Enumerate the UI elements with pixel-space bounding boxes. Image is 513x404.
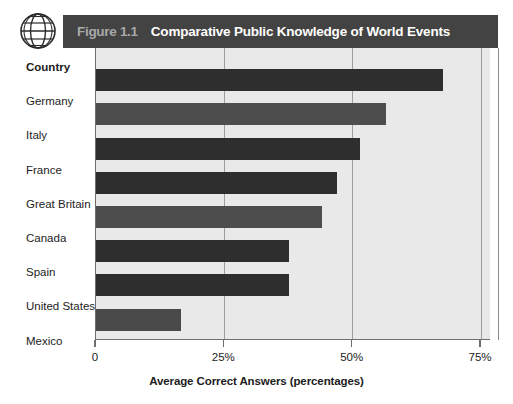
globe-icon [18,11,58,51]
category-label-italy: Italy [26,128,92,142]
category-label-france: France [26,163,92,177]
x-tick-mark-25 [223,340,225,347]
category-label-united-states: United States [26,299,92,313]
bar-spain [96,240,289,262]
category-label-canada: Canada [26,231,92,245]
x-tick-mark-0 [94,340,96,347]
category-label-spain: Spain [26,265,92,279]
bar-united-states [96,274,289,296]
x-tick-label-50: 50% [340,351,363,363]
x-tick-label-0: 0 [92,351,98,363]
category-header-label: Country [26,60,92,74]
bar-italy [96,103,386,125]
bar-germany [96,69,443,91]
x-tick-mark-75 [479,340,481,347]
category-label-germany: Germany [26,94,92,108]
bar-great-britain [96,172,337,194]
x-tick-mark-50 [351,340,353,347]
x-axis-title: Average Correct Answers (percentages) [0,375,513,387]
bar-mexico [96,309,181,331]
plot-area [95,48,490,340]
bar-canada [96,206,322,228]
category-label-great-britain: Great Britain [26,197,92,211]
bar-france [96,138,360,160]
figure-number-label: Figure 1.1 [77,24,138,39]
gridline-75 [481,48,482,339]
gridline-50 [352,48,353,339]
x-tick-label-75: 75% [468,351,491,363]
plot-right-rule [498,48,499,340]
x-tick-label-25: 25% [212,351,235,363]
figure-title-text: Comparative Public Knowledge of World Ev… [151,24,450,39]
figure-container: Figure 1.1 Comparative Public Knowledge … [0,0,513,404]
category-label-mexico: Mexico [26,334,92,348]
figure-title-banner: Figure 1.1 Comparative Public Knowledge … [63,15,498,48]
